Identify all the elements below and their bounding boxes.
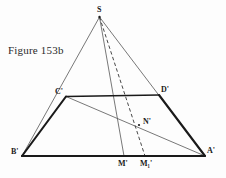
midline-C-prime-D-prime-line [66,95,159,97]
dashed-construction-line [100,17,146,156]
point-label-c-prime: C' [55,88,63,96]
geometry-diagram [0,0,226,178]
thin-construction-lines [22,17,205,156]
point-label-b-prime: B' [11,148,19,156]
vertex-dots [98,16,140,126]
figure-caption: Figure 153b [8,44,64,56]
point-label-n-prime: N' [143,118,151,126]
point-label-m1-prime: M₁' [140,160,152,168]
dot-N-prime [138,124,140,126]
point-label-a-prime: A' [207,147,215,155]
point-label-s: S [97,6,101,14]
dot-S [98,16,100,18]
cevian-S-to-M-prime-line [100,17,125,156]
point-label-d-prime: D' [161,86,169,94]
point-label-m-prime: M' [118,160,128,168]
side-D-prime-A-prime-line [159,95,205,156]
dashed-S-to-M1-prime-line [100,17,146,156]
side-B-prime-C-prime-line [22,97,66,157]
figure-canvas: Figure 153b S C' D' B' A' N' M' M₁' [0,0,226,178]
bold-polygon-edges [22,95,205,156]
